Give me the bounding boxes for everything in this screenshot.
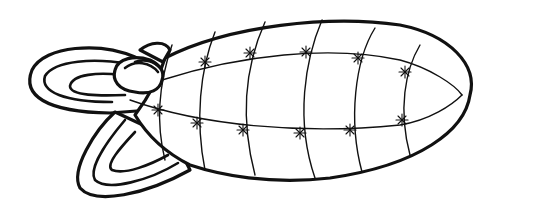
blimp-drawing xyxy=(0,0,537,215)
illustration xyxy=(0,0,537,215)
blimp-body xyxy=(135,21,471,180)
